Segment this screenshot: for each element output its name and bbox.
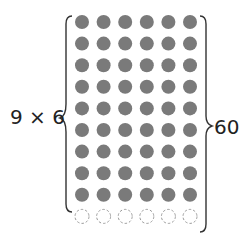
filled-dot: [97, 123, 111, 137]
empty-dot: [161, 209, 175, 223]
array-diagram: 9 × 6 60: [0, 0, 250, 243]
filled-dot: [118, 80, 132, 94]
empty-dot: [140, 209, 154, 223]
filled-dot: [75, 188, 89, 202]
filled-dot: [97, 15, 111, 29]
filled-dot: [161, 101, 175, 115]
filled-dot: [183, 101, 197, 115]
filled-dot: [183, 15, 197, 29]
filled-dot: [183, 188, 197, 202]
filled-dot: [118, 58, 132, 72]
filled-dot: [75, 80, 89, 94]
multiplication-label: 9 × 6: [10, 105, 65, 129]
filled-dot: [118, 145, 132, 159]
filled-dot: [183, 80, 197, 94]
filled-dot: [75, 58, 89, 72]
filled-dot: [118, 166, 132, 180]
filled-dot: [97, 188, 111, 202]
filled-dot: [118, 123, 132, 137]
total-label: 60: [214, 115, 239, 139]
filled-dot: [140, 166, 154, 180]
filled-dot: [75, 37, 89, 51]
filled-dot: [97, 101, 111, 115]
filled-dot: [140, 188, 154, 202]
filled-dot: [97, 37, 111, 51]
filled-dot: [161, 80, 175, 94]
empty-dot: [118, 209, 132, 223]
filled-dot: [140, 123, 154, 137]
empty-dot: [97, 209, 111, 223]
filled-dot: [183, 166, 197, 180]
filled-dot: [118, 15, 132, 29]
filled-dot: [140, 15, 154, 29]
filled-dot: [161, 15, 175, 29]
filled-dot: [140, 37, 154, 51]
filled-dot: [75, 123, 89, 137]
filled-dot: [140, 58, 154, 72]
filled-dot: [75, 101, 89, 115]
filled-dot: [140, 145, 154, 159]
filled-dot: [118, 101, 132, 115]
filled-dot: [183, 123, 197, 137]
filled-dot: [75, 15, 89, 29]
filled-dot: [75, 145, 89, 159]
filled-dot: [183, 58, 197, 72]
filled-dot: [75, 166, 89, 180]
filled-dot: [118, 188, 132, 202]
filled-dot: [183, 37, 197, 51]
filled-dot: [97, 166, 111, 180]
filled-dot: [140, 101, 154, 115]
right-brace: [200, 16, 212, 232]
filled-dot: [97, 80, 111, 94]
empty-dot: [75, 209, 89, 223]
filled-dot: [183, 145, 197, 159]
empty-dot: [183, 209, 197, 223]
filled-dot: [161, 37, 175, 51]
filled-dot: [97, 58, 111, 72]
filled-dot: [97, 145, 111, 159]
filled-dot: [161, 145, 175, 159]
filled-dot: [161, 123, 175, 137]
filled-dot: [140, 80, 154, 94]
filled-dot: [161, 58, 175, 72]
dot-grid: [75, 15, 197, 223]
filled-dot: [161, 166, 175, 180]
filled-dot: [118, 37, 132, 51]
filled-dot: [161, 188, 175, 202]
